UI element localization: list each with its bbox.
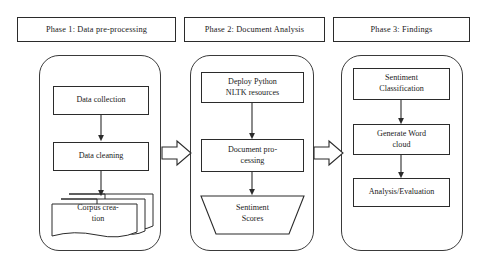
- block-arrow-phase2-to-phase3: [314, 141, 343, 165]
- block-arrow-phase1-to-phase2: [162, 141, 191, 165]
- connector-arrows-layer: [0, 0, 484, 270]
- flowchart-diagram: Phase 1: Data pre-processing Phase 2: Do…: [0, 0, 484, 270]
